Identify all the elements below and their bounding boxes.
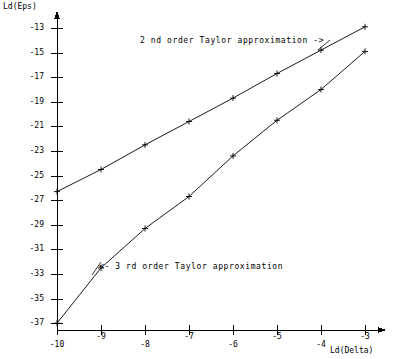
- y-axis-arrow-icon: [54, 11, 60, 19]
- plot-svg: [0, 0, 406, 359]
- data-point-marker: [230, 95, 236, 101]
- data-point-marker: [274, 71, 280, 77]
- chart-canvas: Ld(Eps) Ld(Delta) 2 nd order Taylor appr…: [0, 0, 406, 359]
- axis-group: [54, 11, 386, 333]
- series-group: [54, 24, 368, 326]
- data-point-marker: [54, 189, 60, 195]
- series-line: [57, 51, 365, 323]
- series-line: [57, 27, 365, 192]
- annotation-leader-group: [92, 40, 330, 275]
- data-point-marker: [142, 142, 148, 148]
- x-axis-arrow-icon: [378, 327, 386, 333]
- data-point-marker: [98, 167, 104, 173]
- data-point-marker: [362, 24, 368, 30]
- data-point-marker: [186, 119, 192, 125]
